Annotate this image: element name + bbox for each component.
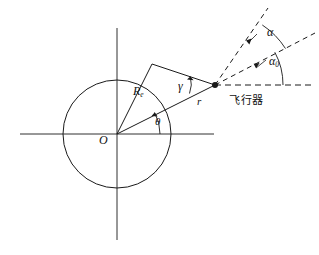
gamma-label: γ bbox=[178, 80, 183, 92]
sight-line bbox=[152, 64, 215, 85]
vehicle-label: 飞行器 bbox=[229, 91, 264, 107]
alpha-label: α bbox=[267, 26, 273, 38]
origin-label: O bbox=[99, 134, 108, 146]
alpha-ray-dashed bbox=[215, 8, 268, 85]
diagram-canvas: Re γ r θ O α α0 飞行器 bbox=[0, 0, 319, 255]
alpha-arc-tail bbox=[249, 34, 257, 42]
alpha0-ray-dashed bbox=[215, 33, 315, 85]
theta-label: θ bbox=[155, 116, 160, 127]
range-line bbox=[117, 85, 215, 134]
earth-radius-label: Re bbox=[133, 85, 144, 98]
earth-radius-line bbox=[117, 64, 152, 134]
alpha0-label: α0 bbox=[269, 55, 279, 68]
range-label: r bbox=[197, 96, 201, 107]
alpha-arc bbox=[262, 25, 285, 49]
